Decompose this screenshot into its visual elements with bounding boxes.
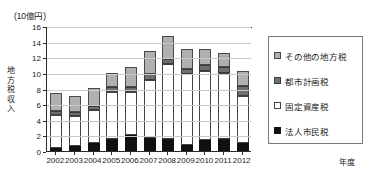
bar-2005 [106,73,118,151]
x-tick-mark [242,152,243,155]
legend-swatch-icon [274,102,281,109]
bar-segment [69,96,81,112]
y-tick-mark [43,74,46,75]
y-tick-mark [43,58,46,59]
bar-segment [106,139,118,152]
x-tick-label: 2011 [214,156,231,165]
y-tick-mark [43,136,46,137]
bar-segment [199,140,211,151]
x-tick-label: 2008 [158,156,176,165]
plot-area [46,27,251,152]
x-tick-mark [167,152,168,155]
bar-segment [162,139,174,151]
y-tick-label: 8 [37,85,41,94]
bar-segment [106,92,118,139]
gridline [47,105,251,106]
x-tick-mark [93,152,94,155]
y-tick-label: 12 [32,54,41,63]
bar-segment [125,67,137,87]
bar-segment [144,138,156,151]
bar-2003 [69,96,81,151]
x-tick-mark [55,152,56,155]
bar-segment [144,51,156,74]
gridline [47,136,251,137]
x-tick-mark [204,152,205,155]
legend-item: その他の地方税 [274,43,362,68]
x-tick-mark [223,152,224,155]
bar-segment [181,145,193,151]
legend-item: 法人市民税 [274,118,362,143]
legend-label: 法人市民税 [285,125,329,137]
y-tick-label: 4 [37,116,41,125]
legend-swatch-icon [274,77,281,84]
x-tick-label: 2006 [121,156,139,165]
bar-segment [125,135,137,151]
bar-segment [88,110,100,144]
x-tick-label: 2012 [233,156,251,165]
chart-legend: その他の地方税都市計画税固定資産税法人市民税 [268,36,363,144]
bar-segment [88,143,100,151]
bar-segment [199,49,211,65]
bar-2004 [88,88,100,151]
x-tick-label: 2005 [102,156,120,165]
y-tick-mark [43,27,46,28]
bar-2008 [162,36,174,151]
x-tick-label: 2002 [46,156,64,165]
bar-segment [50,93,62,111]
bar-2006 [125,67,137,151]
x-tick-label: 2003 [65,156,83,165]
y-tick-mark [43,43,46,44]
gridline [47,90,251,91]
y-tick-label: 6 [37,101,41,110]
y-tick-label: 16 [32,23,41,32]
gridline [47,43,251,44]
x-tick-label: 2007 [140,156,158,165]
y-tick-mark [43,105,46,106]
bar-segment [237,143,249,151]
x-axis-title: 年度 [339,156,355,167]
y-tick-mark [43,152,46,153]
legend-label: 都市計画税 [285,75,329,87]
bar-segment [181,74,193,145]
x-tick-label: 2009 [177,156,195,165]
bar-2012 [237,71,249,151]
x-tick-label: 2004 [84,156,102,165]
y-tick-label: 10 [32,69,41,78]
gridline [47,27,251,28]
bar-segment [218,139,230,152]
bar-segment [218,53,230,68]
x-tick-mark [111,152,112,155]
y-tick-label: 14 [32,38,41,47]
bar-segment [69,146,81,151]
bar-segment [237,71,249,87]
bar-segment [237,86,249,96]
x-tick-mark [74,152,75,155]
legend-swatch-icon [274,127,281,134]
y-tick-mark [43,121,46,122]
y-tick-label: 0 [37,148,41,157]
x-tick-label: 2010 [196,156,214,165]
x-tick-mark [130,152,131,155]
gridline [47,74,251,75]
bar-chart-figure: (10億円) 地 方 税 収 入 年度 その他の地方税都市計画税固定資産税法人市… [0,0,368,194]
bar-segment [162,36,174,59]
bar-segment [50,148,62,151]
legend-item: 都市計画税 [274,68,362,93]
legend-label: 固定資産税 [285,100,329,112]
legend-label: その他の地方税 [285,50,347,62]
y-tick-mark [43,90,46,91]
x-tick-mark [186,152,187,155]
bar-2002 [50,93,62,151]
gridline [47,121,251,122]
bar-segment [125,92,137,136]
gridline [47,58,251,59]
bar-segment [106,73,118,87]
y-tick-label: 2 [37,132,41,141]
x-tick-mark [149,152,150,155]
legend-swatch-icon [274,52,281,59]
legend-item: 固定資産税 [274,93,362,118]
